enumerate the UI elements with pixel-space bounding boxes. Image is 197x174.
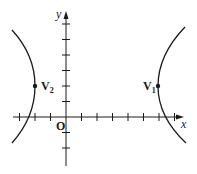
x-axis: x [13,113,187,131]
y-axis-label: y [55,7,62,21]
vertex-v2-letter: V [41,79,50,93]
vertex-v2-dot [33,84,37,88]
vertex-v1-subscript: 1 [152,86,156,95]
vertex-v1-letter: V [143,79,152,93]
x-axis-label: x [180,117,187,131]
vertex-v2: V2 [33,79,54,95]
y-axis: y [55,7,70,166]
vertex-v1-dot [156,84,160,88]
hyperbola-diagram: x y O V2 [0,0,197,174]
vertex-v2-label: V2 [41,79,54,95]
y-axis-arrow-icon [64,11,69,19]
origin-label: O [56,119,65,133]
hyperbola-left-branch [12,30,35,143]
vertex-v2-subscript: 2 [50,86,54,95]
vertex-v1-label: V1 [143,79,156,95]
